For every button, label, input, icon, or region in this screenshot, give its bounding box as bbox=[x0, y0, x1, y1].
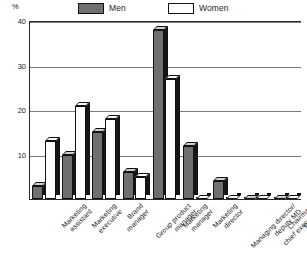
y-axis-tick-20: 20 bbox=[18, 107, 30, 115]
bar-face bbox=[135, 177, 146, 199]
bar-group bbox=[181, 22, 211, 199]
bar-face bbox=[45, 141, 56, 199]
y-axis-tick-30: 30 bbox=[18, 63, 30, 71]
bar-face bbox=[92, 132, 103, 199]
x-axis-labels: Marketing assistantMarketing executiveBr… bbox=[29, 200, 301, 272]
y-axis-tick-40: 40 bbox=[18, 18, 30, 26]
bar-side-3d bbox=[86, 102, 90, 195]
bar-face bbox=[123, 172, 134, 199]
bar-top-3d bbox=[286, 195, 301, 199]
bar-face bbox=[105, 119, 116, 199]
bar-group bbox=[151, 22, 181, 199]
y-axis-unit-label: % bbox=[12, 3, 19, 11]
legend-swatch-women bbox=[168, 3, 194, 14]
legend-label-women: Women bbox=[199, 4, 229, 13]
bar-group bbox=[242, 22, 272, 199]
chart-legend: Men Women bbox=[78, 2, 268, 16]
bar-group bbox=[211, 22, 241, 199]
bar-face bbox=[32, 186, 43, 199]
bar-face bbox=[62, 155, 73, 200]
bar-top-3d bbox=[226, 195, 241, 199]
bar-face bbox=[165, 79, 176, 199]
bar-side-3d bbox=[116, 115, 120, 195]
bar-face bbox=[75, 106, 86, 199]
x-axis-label: Brand manager bbox=[120, 202, 151, 233]
bar-top-3d bbox=[256, 195, 271, 199]
y-axis-tick-10: 10 bbox=[18, 152, 30, 160]
bar-group bbox=[272, 22, 302, 199]
plot-area: 10203040 bbox=[29, 21, 301, 199]
bar-side-3d bbox=[56, 137, 60, 195]
bar-chart: Men Women % 10203040 Marketing assistant… bbox=[0, 0, 307, 272]
bar-top-3d bbox=[196, 195, 211, 199]
legend-swatch-men bbox=[78, 3, 104, 14]
bar-group bbox=[121, 22, 151, 199]
legend-label-men: Men bbox=[109, 4, 126, 13]
bar-side-3d bbox=[194, 142, 198, 195]
bar-face bbox=[183, 146, 194, 199]
bar-group bbox=[90, 22, 120, 199]
bar-side-3d bbox=[176, 75, 180, 195]
legend-item-men: Men bbox=[78, 2, 126, 15]
bar-group bbox=[60, 22, 90, 199]
x-axis-label: Marketing executive bbox=[90, 202, 123, 235]
legend-item-women: Women bbox=[168, 2, 229, 15]
bar-face bbox=[153, 30, 164, 199]
bar-series-container bbox=[30, 22, 301, 199]
bar-face bbox=[213, 181, 224, 199]
bar-group bbox=[30, 22, 60, 199]
x-axis-label: Marketing director bbox=[211, 202, 244, 235]
x-axis-label: Marketing assistant bbox=[60, 202, 93, 235]
